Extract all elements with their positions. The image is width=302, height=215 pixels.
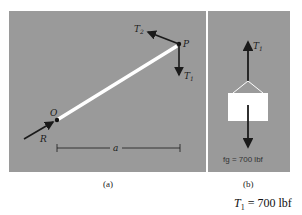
- sling: [233, 81, 263, 93]
- label-r: R: [39, 134, 47, 144]
- tension-t2-arrow: [148, 32, 179, 44]
- free-body-diagram: T2 P T1 O R a T1 fg = 700 lbf: [0, 0, 302, 215]
- caption-a: (a): [103, 179, 113, 189]
- label-weight: fg = 700 lbf: [223, 155, 264, 164]
- label-o: O: [50, 108, 58, 118]
- caption-b: (b): [243, 179, 254, 189]
- reaction-r-arrow: [24, 122, 53, 139]
- result-equation: T1 = 700 lbf: [234, 196, 292, 212]
- label-p: P: [182, 39, 190, 49]
- point-o: [55, 118, 59, 122]
- label-a: a: [113, 143, 118, 153]
- label-b-t1: T1: [253, 41, 263, 52]
- label-t2: T2: [134, 24, 144, 35]
- label-t1: T1: [184, 71, 194, 82]
- beam: [57, 46, 177, 120]
